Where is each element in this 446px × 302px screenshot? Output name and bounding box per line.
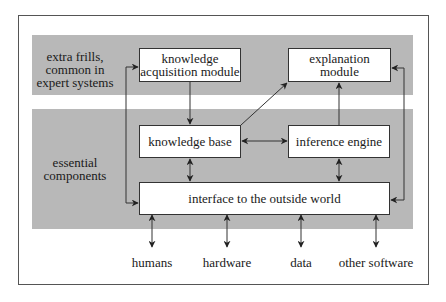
edge-right-loop xyxy=(391,68,404,200)
node-label: knowledge base xyxy=(148,135,231,148)
edge-kb-to-expl xyxy=(241,83,287,125)
external-hardware: hardware xyxy=(187,256,267,269)
node-knowledge-base: knowledge base xyxy=(139,125,241,158)
node-label: explanation module xyxy=(309,52,370,78)
external-humans: humans xyxy=(112,256,192,269)
node-knowledge-acquisition-module: knowledge acquisition module xyxy=(139,48,241,82)
edge-left-loop xyxy=(126,67,138,203)
node-label: inference engine xyxy=(296,135,382,148)
node-label: knowledge acquisition module xyxy=(140,52,239,78)
node-interface: interface to the outside world xyxy=(139,182,390,215)
node-label: interface to the outside world xyxy=(188,192,340,205)
node-explanation-module: explanation module xyxy=(288,48,391,82)
external-other-software: other software xyxy=(326,256,426,269)
node-inference-engine: inference engine xyxy=(288,125,390,158)
